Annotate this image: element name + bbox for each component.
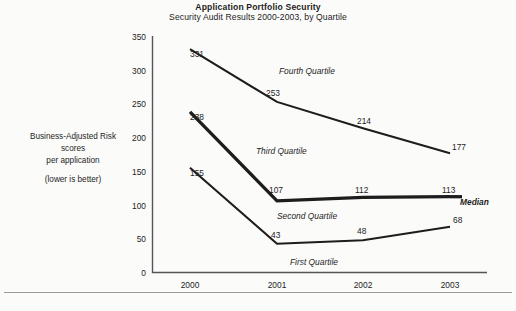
annotation-second-quartile: Second Quartile [277, 211, 337, 221]
value-label-fourth-2003: 177 [452, 143, 466, 151]
series-line-second-quartile [190, 168, 450, 244]
y-tick-0: 0 [116, 269, 146, 277]
value-label-second-2003: 68 [453, 216, 462, 224]
annotation-third-quartile: Third Quartile [256, 146, 307, 156]
value-label-second-2002: 48 [357, 227, 366, 235]
x-tick-2000: 2000 [167, 280, 213, 290]
y-tick-350: 350 [116, 33, 146, 41]
value-label-fourth-2002: 214 [357, 117, 371, 125]
y-tick-50: 50 [116, 235, 146, 243]
y-tick-300: 300 [116, 67, 146, 75]
value-label-median-2000: 238 [190, 113, 204, 121]
bottom-divider [4, 292, 512, 293]
x-tick-2003: 2003 [427, 280, 473, 290]
value-label-second-2001: 43 [271, 231, 280, 239]
annotation-median: Median [460, 197, 489, 207]
value-label-fourth-2001: 253 [266, 89, 280, 97]
series-line-median [190, 112, 450, 201]
chart-page: Application Portfolio Security Security … [0, 0, 516, 311]
annotation-first-quartile: First Quartile [290, 257, 338, 267]
y-tick-100: 100 [116, 202, 146, 210]
value-label-second-2000: 155 [190, 169, 204, 177]
series-line-fourth-quartile [190, 49, 450, 153]
x-tick-2001: 2001 [254, 280, 300, 290]
annotation-fourth-quartile: Fourth Quartile [279, 66, 335, 76]
x-tick-2002: 2002 [340, 280, 386, 290]
y-tick-150: 150 [116, 168, 146, 176]
value-label-median-2002: 112 [355, 186, 368, 194]
y-tick-200: 200 [116, 134, 146, 142]
value-label-fourth-2000: 331 [190, 50, 204, 58]
value-label-median-2001: 107 [269, 186, 283, 194]
y-tick-250: 250 [116, 100, 146, 108]
value-label-median-2003: 113 [442, 186, 455, 194]
